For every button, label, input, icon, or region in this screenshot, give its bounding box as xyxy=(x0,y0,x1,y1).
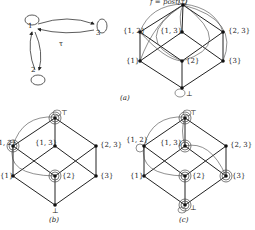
a-label-bottom: ⊥ xyxy=(186,91,193,98)
panel-c-caption: (c) xyxy=(179,216,188,224)
b-label-23: {2, 3} xyxy=(100,142,122,149)
b-label-3: {3} xyxy=(100,173,113,180)
c-label-12: {1, 2} xyxy=(126,137,148,144)
lattice-a xyxy=(138,0,227,97)
automaton-node-2-label: 2 xyxy=(31,67,35,74)
self-loop-node-2 xyxy=(31,75,45,85)
a-label-1: {1} xyxy=(126,58,139,65)
a-label-3: {3} xyxy=(228,58,241,65)
b-label-1: {1} xyxy=(0,173,13,180)
b-label-bottom: ⊥ xyxy=(52,208,59,215)
a-label-23: {2, 3} xyxy=(228,28,250,35)
c-label-2: {2} xyxy=(192,173,205,180)
c-label-13: {1, 3} xyxy=(160,140,182,147)
b-label-top: ⊤ xyxy=(61,110,68,117)
edge-1-to-3 xyxy=(38,19,94,24)
edge-2-to-1 xyxy=(30,32,35,70)
c-label-23: {2, 3} xyxy=(230,142,252,149)
c-label-1: {1} xyxy=(130,173,143,180)
c-label-3: {3} xyxy=(232,173,245,180)
c-label-bottom: ⊥ xyxy=(190,205,197,212)
a-label-13: {1, 3} xyxy=(160,28,182,35)
lattice-b xyxy=(7,110,98,207)
a-label-12: {1, 2} xyxy=(123,28,145,35)
b-label-2: {2} xyxy=(62,173,75,180)
edge-1-to-2 xyxy=(35,32,41,70)
panel-a-caption: (a) xyxy=(120,94,130,102)
panel-b-caption: (b) xyxy=(49,216,59,224)
c-label-top: ⊤ xyxy=(190,110,197,117)
b-label-13: {1, 3} xyxy=(35,140,57,147)
lattice-c xyxy=(136,110,232,213)
b-label-12: {1, 2} xyxy=(0,140,16,147)
tau-label: τ xyxy=(59,41,63,48)
automaton-node-1-label: 1 xyxy=(28,23,32,30)
edge-3-to-1 xyxy=(38,29,94,33)
automaton-graph xyxy=(25,15,107,85)
panel-a-title: f = post[τ] xyxy=(150,0,187,6)
a-label-2: {2} xyxy=(186,58,199,65)
automaton-node-3-label: 3 xyxy=(96,30,100,37)
